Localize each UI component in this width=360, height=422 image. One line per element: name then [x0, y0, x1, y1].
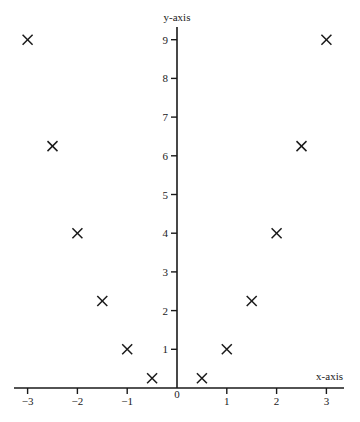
x-tick-label: −2 — [72, 395, 84, 407]
y-tick-label: 6 — [163, 150, 169, 162]
x-tick-label: 3 — [324, 395, 330, 407]
x-marker-icon — [222, 344, 232, 354]
y-tick-label: 1 — [163, 343, 169, 355]
x-marker-icon — [272, 228, 282, 238]
x-marker-icon — [247, 296, 257, 306]
y-tick-label: 4 — [163, 227, 169, 239]
x-marker-icon — [48, 141, 58, 151]
y-tick-label: 5 — [163, 189, 169, 201]
x-tick-label: 1 — [224, 395, 230, 407]
y-tick-label: 8 — [163, 72, 169, 84]
x-axis-title: x-axis — [316, 370, 343, 382]
scatter-plot: −3−2−1123 123456789 0 x-axis y-axis — [0, 0, 360, 422]
y-tick-label: 3 — [163, 266, 169, 278]
y-tick-label: 9 — [163, 34, 169, 46]
y-ticks: 123456789 — [163, 34, 178, 356]
x-marker-icon — [97, 296, 107, 306]
x-marker-icon — [321, 35, 331, 45]
x-tick-label: −1 — [121, 395, 133, 407]
origin-label: 0 — [174, 388, 180, 400]
y-tick-label: 7 — [163, 111, 169, 123]
x-marker-icon — [297, 141, 307, 151]
y-tick-label: 2 — [163, 305, 169, 317]
y-axis-title: y-axis — [164, 11, 191, 23]
x-marker-icon — [122, 344, 132, 354]
x-tick-label: 2 — [274, 395, 280, 407]
x-marker-icon — [197, 373, 207, 383]
x-marker-icon — [147, 373, 157, 383]
x-marker-icon — [23, 35, 33, 45]
x-marker-icon — [72, 228, 82, 238]
x-tick-label: −3 — [22, 395, 34, 407]
axes — [14, 27, 344, 388]
